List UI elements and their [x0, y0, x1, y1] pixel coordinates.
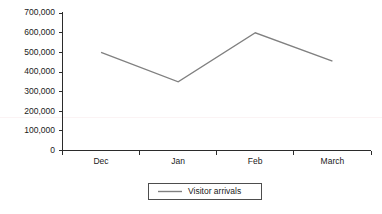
- y-tick-label-400000: 400,000: [24, 66, 55, 76]
- chart-legend: Visitor arrivals: [149, 184, 262, 200]
- legend-label-visitor-arrivals: Visitor arrivals: [188, 186, 241, 196]
- x-tick-label-feb: Feb: [248, 156, 263, 166]
- y-tick-label-300000: 300,000: [24, 86, 55, 96]
- y-tick-label-0: 0: [50, 145, 55, 155]
- y-tick-label-100000: 100,000: [24, 125, 55, 135]
- x-tick-label-dec: Dec: [93, 156, 109, 166]
- x-tick-label-jan: Jan: [171, 156, 185, 166]
- y-tick-label-500000: 500,000: [24, 47, 55, 57]
- x-tick-label-march: March: [321, 156, 345, 166]
- y-tick-label-700000: 700,000: [24, 7, 55, 17]
- y-tick-label-600000: 600,000: [24, 27, 55, 37]
- chart-canvas: 0 100,000 200,000 300,000 400,000 500,00…: [0, 0, 382, 214]
- line-chart: 0 100,000 200,000 300,000 400,000 500,00…: [0, 0, 382, 214]
- chart-background: [0, 0, 382, 214]
- y-tick-label-200000: 200,000: [24, 106, 55, 116]
